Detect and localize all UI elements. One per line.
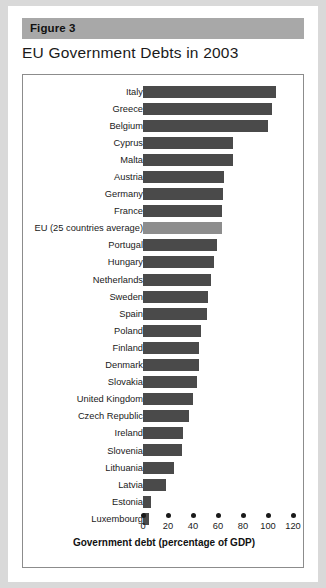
x-axis-tick-label: 60	[213, 521, 223, 531]
bar	[143, 462, 174, 474]
bar-category-label: Ireland	[0, 428, 143, 438]
bar-track	[143, 205, 293, 217]
bar-row: EU (25 countries average)	[23, 220, 305, 237]
bar-category-label: EU (25 countries average)	[0, 223, 143, 233]
bar	[143, 120, 268, 132]
figure-number-band: Figure 3	[22, 18, 304, 39]
bar-category-label: Cyprus	[0, 138, 143, 148]
bar-category-label: Sweden	[0, 292, 143, 302]
bar-category-label: Czech Republic	[0, 411, 143, 421]
bar-row: United Kingdom	[23, 391, 305, 408]
bar-track	[143, 171, 293, 183]
bar	[143, 188, 223, 200]
bar	[143, 444, 182, 456]
bar-row: Malta	[23, 151, 305, 168]
x-axis-tick-label: 80	[238, 521, 248, 531]
bar-chart-plot: ItalyGreeceBelgiumCyprusMaltaAustriaGerm…	[23, 75, 305, 569]
bar-track	[143, 479, 293, 491]
bar-row: Greece	[23, 100, 305, 117]
bar	[143, 154, 233, 166]
x-axis-tick	[166, 513, 171, 518]
x-axis-tick-label: 40	[188, 521, 198, 531]
bar-category-label: Austria	[0, 172, 143, 182]
bar	[143, 274, 211, 286]
bar-row: Czech Republic	[23, 408, 305, 425]
bar-category-label: Malta	[0, 155, 143, 165]
bar-track	[143, 325, 293, 337]
bar-row: Slovenia	[23, 442, 305, 459]
bar	[143, 479, 166, 491]
bar-category-label: Poland	[0, 326, 143, 336]
figure-number-label: Figure 3	[30, 22, 76, 34]
bar	[143, 171, 224, 183]
bar-track	[143, 291, 293, 303]
bar-row: Sweden	[23, 288, 305, 305]
bar-category-label: Finland	[0, 343, 143, 353]
x-axis-tick-label: 20	[163, 521, 173, 531]
bar-category-label: Denmark	[0, 360, 143, 370]
bar-track	[143, 444, 293, 456]
bar-row: Italy	[23, 83, 305, 100]
bar	[143, 222, 222, 234]
bar-row: Latvia	[23, 476, 305, 493]
bar-category-label: United Kingdom	[0, 394, 143, 404]
bar-category-label: Slovakia	[0, 377, 143, 387]
x-axis: Government debt (percentage of GDP) 0204…	[23, 513, 305, 569]
bar-track	[143, 393, 293, 405]
x-axis-title: Government debt (percentage of GDP)	[23, 537, 305, 548]
bar-row: Netherlands	[23, 271, 305, 288]
bar-row: Cyprus	[23, 134, 305, 151]
bar-row: Hungary	[23, 254, 305, 271]
bar-track	[143, 342, 293, 354]
bar	[143, 205, 222, 217]
bar	[143, 410, 189, 422]
bar-category-label: Portugal	[0, 240, 143, 250]
chart-panel: ItalyGreeceBelgiumCyprusMaltaAustriaGerm…	[22, 74, 304, 568]
bar-track	[143, 222, 293, 234]
bar-track	[143, 256, 293, 268]
bar-category-label: Belgium	[0, 121, 143, 131]
bar	[143, 256, 214, 268]
figure-page: Figure 3 EU Government Debts in 2003 Ita…	[8, 6, 318, 582]
bar-rows: ItalyGreeceBelgiumCyprusMaltaAustriaGerm…	[23, 83, 305, 527]
bar-row: Spain	[23, 305, 305, 322]
bar	[143, 376, 197, 388]
bar-row: Austria	[23, 168, 305, 185]
bar-track	[143, 120, 293, 132]
bar-row: Portugal	[23, 237, 305, 254]
bar-track	[143, 427, 293, 439]
bar-row: Slovakia	[23, 374, 305, 391]
bar-row: Lithuania	[23, 459, 305, 476]
bar-track	[143, 376, 293, 388]
bar	[143, 103, 272, 115]
bar-category-label: Germany	[0, 189, 143, 199]
bar-row: Belgium	[23, 117, 305, 134]
x-axis-tick	[191, 513, 196, 518]
bar-row: Ireland	[23, 425, 305, 442]
bar-category-label: Italy	[0, 87, 143, 97]
x-axis-tick	[266, 513, 271, 518]
bar-category-label: Netherlands	[0, 275, 143, 285]
bar-category-label: Spain	[0, 309, 143, 319]
bar-row: Germany	[23, 186, 305, 203]
bar	[143, 325, 201, 337]
bar	[143, 427, 183, 439]
x-axis-tick-label: 120	[285, 521, 301, 531]
figure-title: EU Government Debts in 2003	[22, 44, 238, 62]
bar	[143, 291, 208, 303]
bar	[143, 342, 199, 354]
bar-track	[143, 154, 293, 166]
bar-category-label: Greece	[0, 104, 143, 114]
x-axis-tick	[291, 513, 296, 518]
bar-row: Poland	[23, 322, 305, 339]
bar-track	[143, 137, 293, 149]
bar-track	[143, 359, 293, 371]
x-axis-tick	[241, 513, 246, 518]
bar-category-label: Latvia	[0, 480, 143, 490]
x-axis-tick	[141, 513, 146, 518]
bar-category-label: Hungary	[0, 257, 143, 267]
bar-row: France	[23, 203, 305, 220]
bar-track	[143, 496, 293, 508]
x-axis-tick-label: 100	[260, 521, 276, 531]
bar	[143, 496, 151, 508]
